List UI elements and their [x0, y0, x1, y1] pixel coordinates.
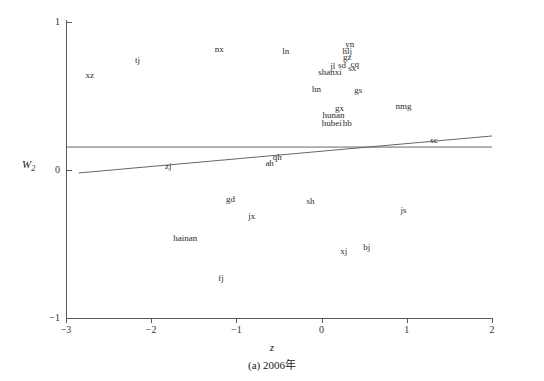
y-axis-title-subscript: 2 [31, 164, 35, 173]
data-point-label: hn [312, 85, 321, 94]
x-tick-label: −3 [51, 325, 81, 335]
data-point-label: gs [354, 86, 362, 95]
data-point-label: hubei [322, 118, 342, 127]
x-tick-mark [407, 318, 408, 323]
data-point-label: tj [135, 56, 140, 65]
data-point-label: js [400, 205, 406, 214]
y-tick-mark [67, 318, 72, 319]
data-point-label: jx [248, 211, 255, 220]
data-point-label: nmg [395, 101, 411, 110]
x-tick-mark [236, 318, 237, 323]
data-point-label: hainan [173, 234, 197, 243]
data-point-label: sh [307, 197, 315, 206]
data-point-label: zj [165, 161, 172, 170]
y-tick-label: 1 [38, 17, 60, 27]
scatter-plot-figure: −101−3−2−1012 W2 z xztjnxlnynhljgzjlsdcq… [0, 0, 544, 381]
x-tick-label: −2 [136, 325, 166, 335]
data-point-label: sc [430, 135, 438, 144]
y-tick-label: −1 [38, 313, 60, 323]
data-point-label: hb [343, 118, 352, 127]
y-axis-title: W2 [22, 158, 35, 173]
x-tick-label: 1 [392, 325, 422, 335]
y-axis-title-base: W [22, 158, 31, 170]
data-point-label: shanxi [318, 68, 342, 77]
x-tick-mark [492, 318, 493, 323]
data-point-label: gd [226, 194, 235, 203]
data-point-label: sx [348, 64, 356, 73]
data-point-label: xz [86, 70, 95, 79]
figure-caption: (a) 2006年 [0, 356, 544, 372]
y-tick-mark [67, 22, 72, 23]
data-point-label: fj [218, 274, 224, 283]
trend-lines [0, 0, 544, 381]
data-point-label: bj [363, 242, 370, 251]
x-tick-mark [151, 318, 152, 323]
x-axis-title: z [0, 341, 544, 353]
x-tick-label: 2 [477, 325, 507, 335]
data-point-label: xj [340, 246, 347, 255]
x-tick-label: 0 [307, 325, 337, 335]
data-point-label: ln [282, 46, 289, 55]
data-point-label: ah [265, 158, 274, 167]
data-point-label: nx [215, 45, 224, 54]
y-tick-label: 0 [38, 165, 60, 175]
y-tick-mark [67, 170, 72, 171]
x-tick-mark [66, 318, 67, 323]
x-tick-mark [322, 318, 323, 323]
x-axis [66, 318, 493, 319]
x-tick-label: −1 [221, 325, 251, 335]
